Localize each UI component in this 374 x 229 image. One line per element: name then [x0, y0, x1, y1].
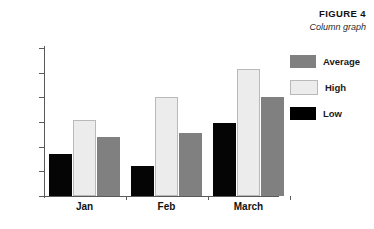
y-axis-tick: [39, 171, 44, 172]
x-axis-label-march: March: [201, 201, 296, 213]
legend-item-high: High: [290, 74, 374, 100]
legend-label-average: Average: [323, 56, 360, 67]
y-axis-tick: [39, 122, 44, 123]
bar-chart-plot: 0102030405060 JanFebMarch: [0, 0, 300, 229]
bar-march-low: [213, 123, 236, 196]
y-axis-tick: [39, 147, 44, 148]
y-axis-tick: [39, 73, 44, 74]
y-axis-tick: [39, 97, 44, 98]
bar-jan-average: [97, 137, 120, 196]
bar-jan-high: [73, 120, 96, 196]
legend-item-low: Low: [290, 100, 374, 126]
bar-jan-low: [49, 154, 72, 196]
y-axis-tick: [39, 48, 44, 49]
bar-march-high: [237, 69, 260, 196]
x-axis-line: [44, 196, 279, 197]
legend-label-low: Low: [323, 108, 342, 119]
legend-label-high: High: [325, 82, 346, 93]
x-axis-tick: [290, 196, 291, 200]
legend-item-average: Average: [290, 48, 374, 74]
x-axis-label-feb: Feb: [119, 201, 214, 213]
bar-march-average: [261, 97, 284, 196]
bar-feb-low: [131, 166, 154, 196]
x-axis-tick: [126, 196, 127, 200]
y-axis-tick: [39, 196, 44, 197]
x-axis-tick: [208, 196, 209, 200]
chart-legend: Average High Low: [290, 48, 374, 126]
x-axis-label-jan: Jan: [37, 201, 132, 213]
bar-feb-average: [179, 133, 202, 196]
bar-feb-high: [155, 97, 178, 196]
y-axis-line: [44, 46, 45, 198]
